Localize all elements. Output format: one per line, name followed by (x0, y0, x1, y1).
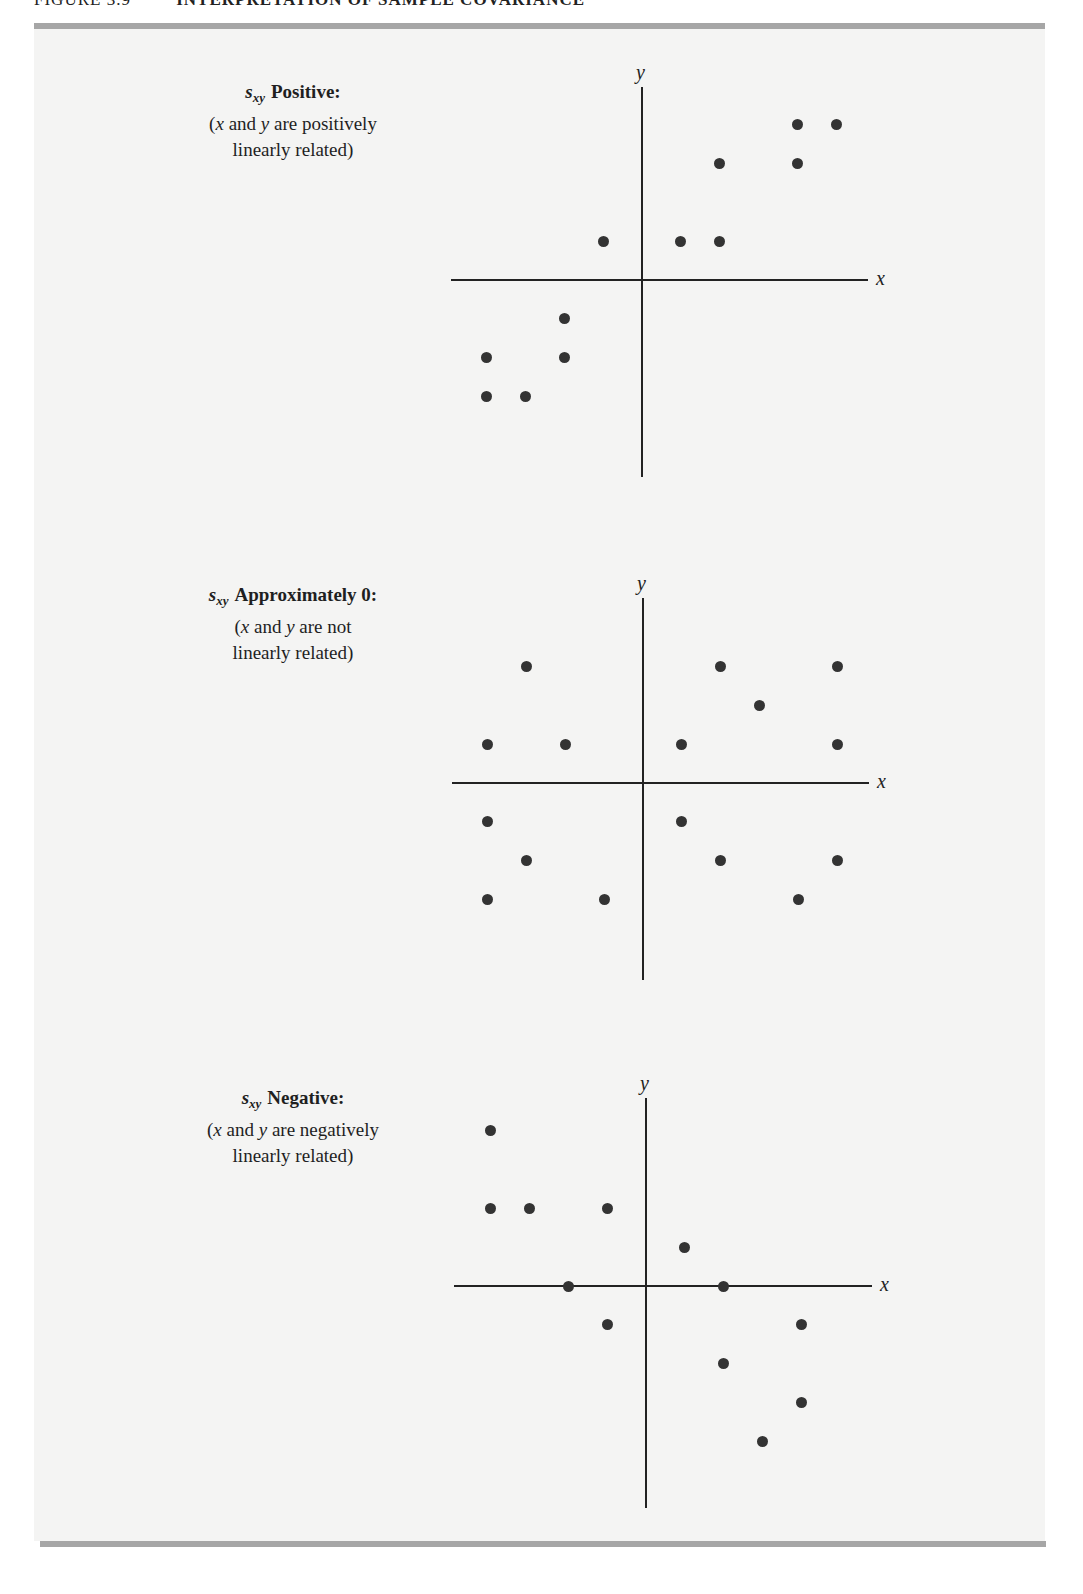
data-point (831, 119, 842, 130)
y-axis-label: y (637, 572, 646, 595)
figure-number: FIGURE 3.9 (34, 0, 131, 9)
data-point (602, 1319, 613, 1330)
panel-description-line1: (x and y are not (163, 614, 423, 640)
y-axis (642, 598, 644, 980)
data-point (792, 119, 803, 130)
data-point (679, 1242, 690, 1253)
data-point (718, 1281, 729, 1292)
data-point (598, 236, 609, 247)
data-point (485, 1203, 496, 1214)
data-point (675, 236, 686, 247)
covariance-symbol: sxy (245, 81, 265, 102)
y-axis-label: y (636, 61, 645, 84)
bottom-rule (40, 1541, 1046, 1547)
x-axis (452, 782, 869, 784)
data-point (714, 236, 725, 247)
panel-title: Positive: (271, 81, 341, 102)
x-axis-label: x (880, 1273, 889, 1296)
data-point (524, 1203, 535, 1214)
x-axis (451, 279, 868, 281)
data-point (599, 894, 610, 905)
data-point (563, 1281, 574, 1292)
panel-title: Approximately 0: (235, 584, 378, 605)
panel-description-line2: linearly related) (163, 1143, 423, 1169)
data-point (832, 739, 843, 750)
data-point (754, 700, 765, 711)
panel-description-line1: (x and y are positively (163, 111, 423, 137)
data-point (560, 739, 571, 750)
figure-panel (34, 29, 1045, 1541)
covariance-symbol: sxy (242, 1087, 262, 1108)
panel-description-line1: (x and y are negatively (163, 1117, 423, 1143)
covariance-symbol: sxy (209, 584, 229, 605)
data-point (521, 661, 532, 672)
data-point (481, 391, 492, 402)
panel-label-positive: sxyPositive: (x and y are positively lin… (163, 79, 423, 163)
data-point (482, 894, 493, 905)
data-point (602, 1203, 613, 1214)
panel-label-negative: sxyNegative: (x and y are negatively lin… (163, 1085, 423, 1169)
data-point (832, 661, 843, 672)
data-point (792, 158, 803, 169)
data-point (485, 1125, 496, 1136)
y-axis (645, 1098, 647, 1508)
x-axis-label: x (876, 267, 885, 290)
panel-title: Negative: (267, 1087, 344, 1108)
figure-header: FIGURE 3.9 INTERPRETATION OF SAMPLE COVA… (34, 0, 585, 6)
data-point (676, 739, 687, 750)
figure-title: INTERPRETATION OF SAMPLE COVARIANCE (176, 0, 585, 9)
panel-description-line2: linearly related) (163, 640, 423, 666)
data-point (559, 352, 570, 363)
data-point (482, 739, 493, 750)
y-axis-label: y (640, 1072, 649, 1095)
panel-description-line2: linearly related) (163, 137, 423, 163)
panel-label-zero: sxyApproximately 0: (x and y are not lin… (163, 582, 423, 666)
x-axis-label: x (877, 770, 886, 793)
y-axis (641, 87, 643, 477)
data-point (520, 391, 531, 402)
x-axis (454, 1285, 872, 1287)
